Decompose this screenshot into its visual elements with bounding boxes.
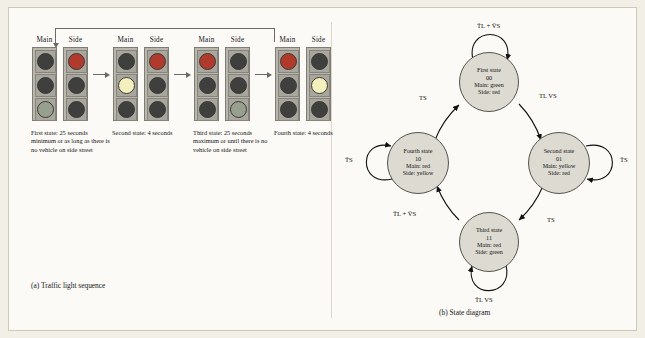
state-first-title: First state bbox=[477, 67, 501, 74]
lamp-green-icon bbox=[230, 101, 247, 118]
lamp-off-icon bbox=[118, 101, 135, 118]
lamp-off-icon bbox=[149, 101, 166, 118]
state-second-main: Main: yellow bbox=[543, 163, 576, 170]
group4-side-pole bbox=[306, 47, 331, 121]
state-diagram: First state 00 Main: green Side: red Sec… bbox=[339, 20, 639, 320]
state-node-first[interactable]: First state 00 Main: green Side: red bbox=[459, 52, 519, 112]
lamp-cell bbox=[147, 74, 168, 97]
lamp-off-icon bbox=[37, 53, 54, 70]
part-b-caption: (b) State diagram bbox=[439, 308, 490, 317]
state-third-title: Third state bbox=[476, 227, 502, 234]
state-fourth-code: 10 bbox=[415, 156, 421, 163]
figure-panel: Main Side First state: 25 seconds minimu… bbox=[8, 7, 637, 331]
lamp-cell bbox=[228, 98, 249, 121]
lamp-yellow-icon bbox=[311, 77, 328, 94]
lamp-off-icon bbox=[280, 101, 297, 118]
lamp-cell bbox=[147, 98, 168, 121]
state-first-code: 00 bbox=[486, 75, 492, 82]
lamp-cell bbox=[35, 50, 56, 73]
lamp-cell bbox=[278, 74, 299, 97]
lamp-cell bbox=[197, 98, 218, 121]
state-first-side: Side: red bbox=[478, 89, 500, 96]
group1-side-header: Side bbox=[62, 36, 89, 44]
lamp-cell bbox=[197, 50, 218, 73]
lamp-off-icon bbox=[230, 53, 247, 70]
state-node-second[interactable]: Second state 01 Main: yellow Side: red bbox=[528, 132, 590, 194]
state-fourth-side: Side: yellow bbox=[403, 170, 434, 177]
group2-main-header: Main bbox=[112, 36, 139, 44]
state-node-third[interactable]: Third state 11 Main: red Side: green bbox=[459, 212, 519, 272]
state-second-code: 01 bbox=[556, 156, 562, 163]
arrow-1-to-2 bbox=[93, 74, 109, 75]
group3-side-pole bbox=[225, 47, 250, 121]
group1-main-header: Main bbox=[31, 36, 58, 44]
edge-label-fourth-to-first: TS bbox=[419, 94, 427, 101]
group2-side-pole bbox=[144, 47, 169, 121]
lamp-green-icon bbox=[37, 101, 54, 118]
lamp-cell bbox=[66, 74, 87, 97]
lamp-cell bbox=[309, 74, 330, 97]
lamp-red-icon bbox=[149, 53, 166, 70]
edge-label-third-to-fourth: T̄L + V̄S bbox=[393, 210, 416, 217]
lamp-cell bbox=[228, 74, 249, 97]
lamp-cell bbox=[116, 98, 137, 121]
lamp-off-icon bbox=[230, 77, 247, 94]
lamp-cell bbox=[309, 98, 330, 121]
arrow-2-to-3 bbox=[174, 74, 190, 75]
lamp-cell bbox=[278, 98, 299, 121]
lamp-red-icon bbox=[199, 53, 216, 70]
lamp-off-icon bbox=[199, 77, 216, 94]
group4-main-header: Main bbox=[274, 36, 301, 44]
group3-main-pole bbox=[194, 47, 219, 121]
lamp-cell bbox=[35, 74, 56, 97]
state-third-main: Main: red bbox=[477, 242, 501, 249]
lamp-off-icon bbox=[311, 101, 328, 118]
state-third-side: Side: green bbox=[475, 249, 503, 256]
lamp-red-icon bbox=[68, 53, 85, 70]
arrow-3-to-4 bbox=[255, 74, 271, 75]
group2-main-pole bbox=[113, 47, 138, 121]
traffic-light-sequence: Main Side First state: 25 seconds minimu… bbox=[23, 26, 323, 316]
lamp-red-icon bbox=[280, 53, 297, 70]
part-a-caption: (a) Traffic light sequence bbox=[31, 281, 105, 290]
edge-label-second-self: T̄S bbox=[620, 156, 628, 163]
edge-label-fourth-self: T̄S bbox=[345, 156, 353, 163]
lamp-off-icon bbox=[311, 53, 328, 70]
group3-main-header: Main bbox=[193, 36, 220, 44]
lamp-yellow-icon bbox=[118, 77, 135, 94]
group2-side-header: Side bbox=[143, 36, 170, 44]
state-second-title: Second state bbox=[544, 148, 575, 155]
state-third-code: 11 bbox=[486, 235, 492, 242]
lamp-off-icon bbox=[37, 77, 54, 94]
lamp-cell bbox=[278, 50, 299, 73]
group2-caption: Second state: 4 seconds bbox=[112, 129, 194, 137]
figure-root: Main Side First state: 25 seconds minimu… bbox=[0, 0, 645, 338]
group3-side-header: Side bbox=[224, 36, 251, 44]
edge-label-third-self: T̄L VS bbox=[475, 296, 493, 303]
lamp-cell bbox=[228, 50, 249, 73]
lamp-cell bbox=[197, 74, 218, 97]
group4-main-pole bbox=[275, 47, 300, 121]
state-node-fourth[interactable]: Fourth state 10 Main: red Side: yellow bbox=[387, 132, 449, 194]
group1-side-pole bbox=[63, 47, 88, 121]
group1-caption: First state: 25 seconds minimum or as lo… bbox=[31, 129, 113, 154]
feedback-loop-top bbox=[55, 28, 275, 29]
lamp-off-icon bbox=[149, 77, 166, 94]
lamp-cell bbox=[66, 50, 87, 73]
lamp-off-icon bbox=[118, 53, 135, 70]
group3-caption: Third state: 25 seconds maximum or until… bbox=[193, 129, 275, 154]
lamp-off-icon bbox=[68, 77, 85, 94]
lamp-off-icon bbox=[280, 77, 297, 94]
lamp-cell bbox=[116, 74, 137, 97]
group4-side-header: Side bbox=[305, 36, 332, 44]
lamp-cell bbox=[147, 50, 168, 73]
lamp-cell bbox=[35, 98, 56, 121]
lamp-off-icon bbox=[68, 101, 85, 118]
panel-divider bbox=[331, 22, 332, 318]
edge-label-first-self: T̄L + V̄S bbox=[477, 22, 500, 29]
state-fourth-main: Main: red bbox=[406, 163, 430, 170]
edge-label-first-to-second: TL VS bbox=[539, 92, 557, 99]
edge-label-second-to-third: TS bbox=[547, 216, 555, 223]
lamp-off-icon bbox=[199, 101, 216, 118]
state-first-main: Main: green bbox=[474, 82, 504, 89]
